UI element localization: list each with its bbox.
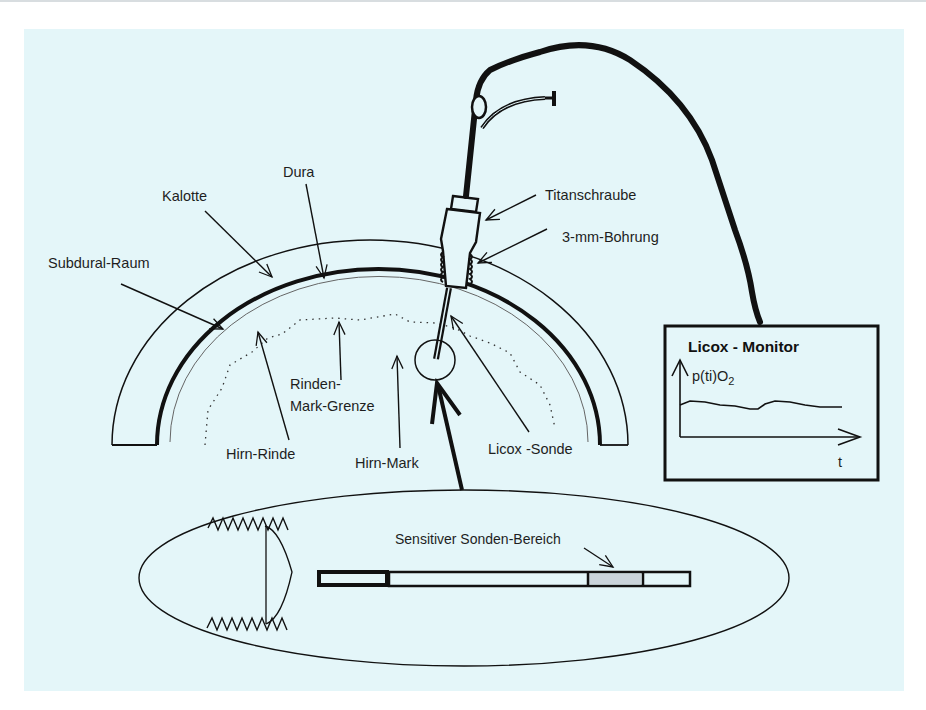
licox-sonde-arrow	[451, 316, 529, 432]
label-subdural-raum: Subdural-Raum	[48, 255, 150, 271]
licox-sonde-probe	[415, 288, 455, 380]
label-sensitiver-sonden-bereich: Sensitiver Sonden-Bereich	[395, 531, 561, 547]
subdural-arrow	[121, 284, 223, 329]
hirn-rinde-arrow	[258, 332, 289, 440]
rinden-mark-grenze-arrow	[339, 322, 341, 380]
titanschraube-arrow	[486, 195, 536, 220]
magnified-region-circle	[415, 340, 455, 380]
dura-arrow	[306, 184, 324, 278]
bohrung-arrow	[478, 229, 547, 263]
label-dura: Dura	[283, 164, 315, 180]
magnified-probe-view: Sensitiver Sonden-Bereich	[139, 490, 789, 666]
probe-cable	[466, 45, 760, 322]
screw-thread-bottom	[207, 618, 287, 630]
licox-probe-diagram: Dura Kalotte Subdural-Raum Titanschraube…	[0, 0, 926, 710]
kalotte-arrow	[205, 211, 272, 277]
label-hirn-rinde: Hirn-Rinde	[226, 446, 295, 462]
titanschraube-screw	[441, 196, 480, 288]
hirn-mark-arrow	[397, 356, 400, 448]
label-hirn-mark: Hirn-Mark	[355, 455, 419, 471]
rinden-mark-grenze-line	[205, 314, 555, 445]
monitor-title: Licox - Monitor	[688, 338, 799, 355]
brain-surface-line	[170, 276, 588, 442]
monitor-x-axis-label: t	[838, 454, 842, 470]
label-titanschraube: Titanschraube	[545, 187, 636, 203]
label-3mm-bohrung: 3-mm-Bohrung	[562, 229, 659, 245]
label-rinden: Rinden-	[290, 376, 341, 392]
label-mark-grenze: Mark-Grenze	[290, 398, 375, 414]
sensitive-region	[588, 574, 641, 584]
label-kalotte: Kalotte	[162, 188, 207, 204]
magnification-arrow	[432, 383, 462, 490]
sensitiver-bereich-arrow	[584, 548, 613, 567]
kalotte-bone	[112, 240, 628, 445]
label-licox-sonde: Licox -Sonde	[488, 441, 573, 457]
licox-monitor: Licox - Monitor p(ti)O2 t	[665, 326, 878, 480]
